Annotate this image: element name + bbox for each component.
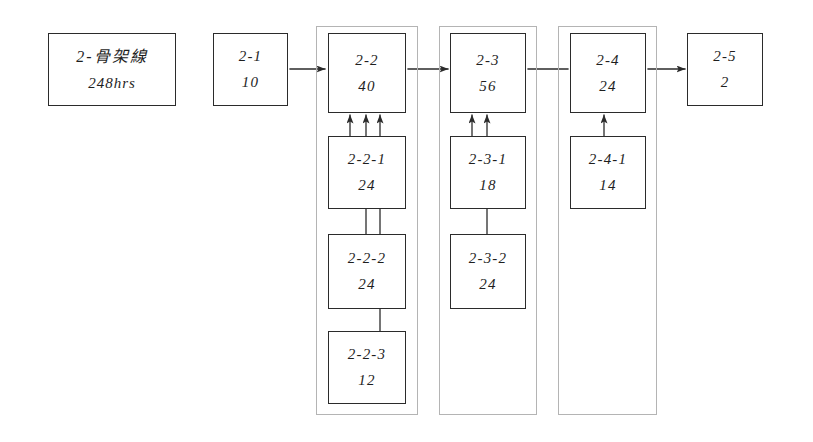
node-2-5-id: 2-5 — [713, 47, 737, 66]
node-2-4-id: 2-4 — [596, 51, 620, 70]
node-2-2-3[interactable]: 2-2-312 — [328, 331, 406, 404]
node-2-2-1-value: 24 — [358, 176, 375, 195]
node-2-1[interactable]: 2-110 — [213, 33, 288, 106]
node-2-5[interactable]: 2-52 — [687, 33, 763, 106]
node-2-2-2-id: 2-2-2 — [348, 249, 387, 268]
node-root-label: 2-骨架線 — [76, 47, 147, 67]
node-2-4[interactable]: 2-424 — [570, 33, 646, 113]
node-2-1-value: 10 — [242, 73, 259, 92]
node-2-3-1-value: 18 — [479, 176, 496, 195]
node-2-2-3-value: 12 — [358, 371, 375, 390]
node-2-2-2-value: 24 — [358, 275, 375, 294]
node-2-2-3-id: 2-2-3 — [348, 345, 387, 364]
node-2-2-2[interactable]: 2-2-224 — [328, 234, 406, 309]
node-2-3-1-id: 2-3-1 — [469, 150, 508, 169]
node-root[interactable]: 2-骨架線 248hrs — [48, 33, 176, 106]
node-2-4-value: 24 — [599, 77, 616, 96]
node-2-3-1[interactable]: 2-3-118 — [450, 136, 526, 209]
node-2-3-2[interactable]: 2-3-224 — [450, 234, 526, 309]
node-2-3-2-value: 24 — [479, 275, 496, 294]
node-2-2-value: 40 — [358, 77, 375, 96]
node-2-2-1-id: 2-2-1 — [348, 150, 387, 169]
node-2-5-value: 2 — [721, 73, 730, 92]
diagram-canvas: 2-骨架線 248hrs 2-1102-2402-2-1242-2-2242-2… — [0, 0, 813, 442]
node-2-4-1-value: 14 — [599, 176, 616, 195]
node-2-3-id: 2-3 — [476, 51, 500, 70]
node-root-duration: 248hrs — [88, 74, 136, 93]
node-2-2-1[interactable]: 2-2-124 — [328, 136, 406, 209]
node-2-2-id: 2-2 — [355, 51, 379, 70]
node-2-2[interactable]: 2-240 — [328, 33, 406, 113]
node-2-4-1-id: 2-4-1 — [589, 150, 628, 169]
node-2-1-id: 2-1 — [239, 47, 263, 66]
node-2-4-1[interactable]: 2-4-114 — [570, 136, 646, 209]
node-2-3-2-id: 2-3-2 — [469, 249, 508, 268]
node-2-3[interactable]: 2-356 — [450, 33, 526, 113]
node-2-3-value: 56 — [479, 77, 496, 96]
